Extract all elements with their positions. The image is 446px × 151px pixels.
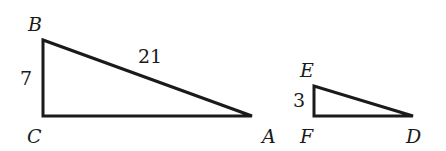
- triangle-abc: B C A 7 21: [20, 13, 276, 147]
- vertex-label-d: D: [405, 125, 421, 147]
- vertex-label-f: F: [299, 125, 314, 147]
- vertex-label-a: A: [260, 125, 276, 147]
- vertex-label-e: E: [299, 59, 314, 81]
- diagram-canvas: B C A 7 21 E F D 3: [0, 0, 446, 151]
- vertex-label-b: B: [27, 13, 42, 35]
- side-label-ef: 3: [293, 89, 305, 111]
- triangle-def-shape: [314, 86, 413, 116]
- side-label-ab: 21: [138, 45, 162, 67]
- vertex-label-c: C: [27, 125, 42, 147]
- triangle-def: E F D 3: [293, 59, 421, 147]
- side-label-bc: 7: [20, 67, 32, 89]
